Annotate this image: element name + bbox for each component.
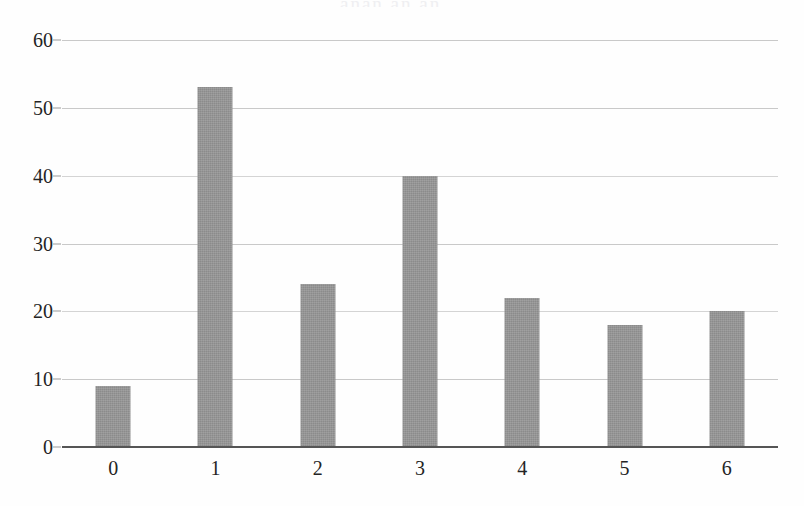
- bar-slot: [267, 40, 369, 447]
- x-tick-label-5: 5: [620, 458, 630, 478]
- y-tick-dash-60: [53, 40, 61, 41]
- x-axis-tick-labels: 0123456: [62, 458, 778, 492]
- bar-slot: [164, 40, 266, 447]
- x-tick-label-1: 1: [210, 458, 220, 478]
- bar: [402, 176, 437, 447]
- y-tick-dash-30: [53, 243, 61, 244]
- bar: [505, 298, 540, 447]
- x-tick-label-0: 0: [108, 458, 118, 478]
- bar: [709, 311, 744, 447]
- bar-chart-figure: anan an an 0102030405060 0123456: [0, 0, 804, 506]
- y-tick-dash-20: [53, 311, 61, 312]
- bar: [96, 386, 131, 447]
- y-tick-label-10: 10: [33, 369, 53, 389]
- bar: [300, 284, 335, 447]
- x-tick-label-2: 2: [313, 458, 323, 478]
- bar-slot: [62, 40, 164, 447]
- plot-area: 0102030405060: [62, 40, 778, 447]
- y-tick-dash-10: [53, 379, 61, 380]
- bar-slot: [471, 40, 573, 447]
- x-axis-line: [62, 446, 778, 448]
- bar-slot: [369, 40, 471, 447]
- x-tick-label-4: 4: [517, 458, 527, 478]
- bar-slot: [573, 40, 675, 447]
- y-tick-dash-40: [53, 175, 61, 176]
- y-tick-dash-0: [53, 447, 61, 448]
- y-tick-label-50: 50: [33, 98, 53, 118]
- bar-slot: [676, 40, 778, 447]
- bars-group: [62, 40, 778, 447]
- y-tick-label-30: 30: [33, 234, 53, 254]
- y-tick-label-40: 40: [33, 166, 53, 186]
- cropped-title-remnant: anan an an: [340, 0, 510, 7]
- bar: [198, 87, 233, 447]
- y-tick-label-20: 20: [33, 301, 53, 321]
- bar: [607, 325, 642, 447]
- y-tick-label-0: 0: [43, 437, 53, 457]
- y-tick-label-60: 60: [33, 30, 53, 50]
- x-tick-label-6: 6: [722, 458, 732, 478]
- y-tick-dash-50: [53, 107, 61, 108]
- x-tick-label-3: 3: [415, 458, 425, 478]
